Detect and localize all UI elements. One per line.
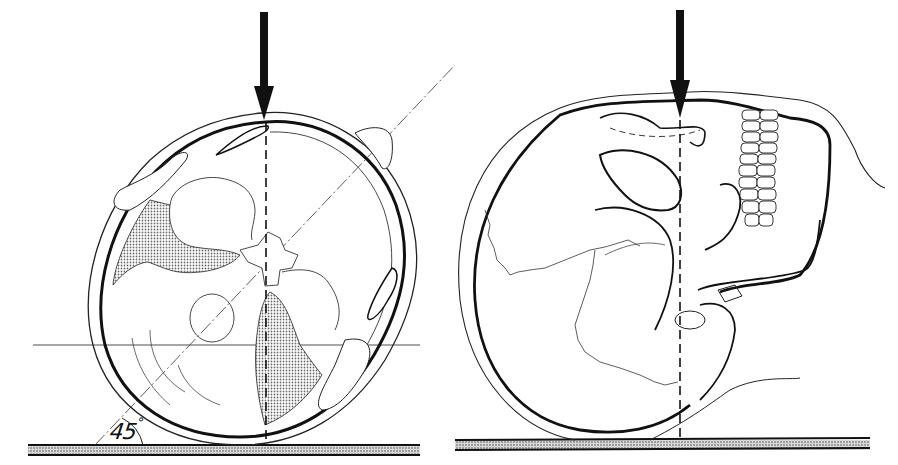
angle-label: 45° [108,419,143,444]
right-teeth [739,110,778,226]
right-zygoma [595,208,673,330]
right-mandible [698,220,820,290]
right-panel [455,10,885,450]
right-floor [455,438,870,450]
left-ear-right [355,128,392,169]
angle-value: 45 [108,419,138,444]
right-orbit [600,150,681,210]
right-suture-lambdoid [575,250,678,385]
left-ear-lower [318,339,369,410]
left-force-arrow-icon [254,12,274,120]
right-scalp-outline [459,92,885,440]
right-maxilla [705,184,740,250]
left-orbit-upper [170,177,255,240]
right-brow-dashed [610,128,700,137]
left-shaded-region-upper [113,200,240,285]
diagram-canvas [0,0,898,465]
left-foramen [190,294,234,342]
right-suture-squamosal [605,243,665,255]
right-brow-ridge [600,113,705,146]
left-skull-outline [101,122,405,437]
left-contour-arc-2 [178,365,220,405]
left-floor [28,445,420,455]
right-neck-outline [650,378,800,440]
right-occipital-condyle [700,304,735,400]
left-contour-arc-1 [150,330,185,392]
left-panel [28,12,455,455]
right-suture-coronal [485,210,640,275]
